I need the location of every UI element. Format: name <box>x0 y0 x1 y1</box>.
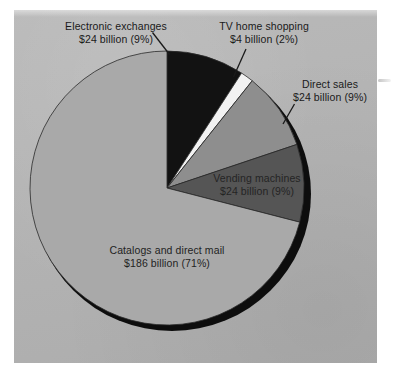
slice-label-value: $24 billion (9%) <box>196 185 318 198</box>
slice-label-value: $186 billion (71%) <box>86 257 248 270</box>
slice-label-direct-sales: Direct sales $24 billion (9%) <box>278 78 382 104</box>
slice-label-value: $4 billion (2%) <box>208 33 320 46</box>
slice-label-value: $24 billion (9%) <box>46 33 186 46</box>
slice-label-vending-machines: Vending machines $24 billion (9%) <box>196 172 318 198</box>
slice-label-name: Direct sales <box>278 78 382 91</box>
slice-label-name: Catalogs and direct mail <box>86 244 248 257</box>
slice-label-tv-home-shopping: TV home shopping $4 billion (2%) <box>208 20 320 46</box>
slice-label-name: Vending machines <box>196 172 318 185</box>
slice-label-name: TV home shopping <box>208 20 320 33</box>
slice-label-value: $24 billion (9%) <box>278 91 382 104</box>
slice-label-electronic-exchanges: Electronic exchanges $24 billion (9%) <box>46 20 186 46</box>
slice-label-catalogs-and-direct-mail: Catalogs and direct mail $186 billion (7… <box>86 244 248 270</box>
slice-label-name: Electronic exchanges <box>46 20 186 33</box>
